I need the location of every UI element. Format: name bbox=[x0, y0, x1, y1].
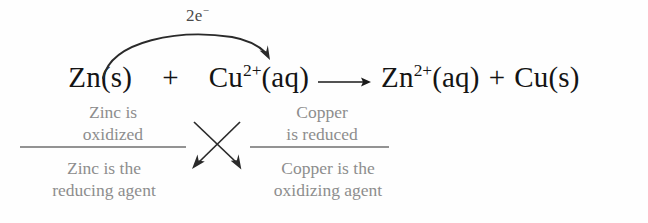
annotation-copper-reduced-line2: is reduced bbox=[252, 123, 392, 145]
product-zinc-ion: Zn2+(aq) bbox=[381, 60, 480, 94]
annotation-reducing-agent-line2: reducing agent bbox=[18, 179, 190, 201]
annotation-oxidizing-agent: Copper is the oxidizing agent bbox=[244, 157, 412, 201]
product-zinc-charge: 2+ bbox=[414, 60, 433, 80]
reaction-yields-arrow-icon bbox=[318, 61, 372, 95]
product-copper-symbol: Cu bbox=[514, 61, 548, 93]
cross-arrow-right-to-left-icon bbox=[192, 122, 240, 169]
electron-count: 2e bbox=[186, 6, 203, 25]
reactant-copper-ion: Cu2+(aq) bbox=[209, 60, 309, 94]
product-copper-state: (s) bbox=[548, 61, 579, 93]
product-copper: Cu(s) bbox=[514, 60, 579, 94]
reactant-copper-symbol: Cu bbox=[209, 61, 243, 93]
annotation-copper-reduced: Copper is reduced bbox=[252, 101, 392, 145]
annotation-zinc-oxidized-line2: oxidized bbox=[38, 123, 188, 145]
annotation-reducing-agent: Zinc is the reducing agent bbox=[18, 157, 190, 201]
equation-plus-operator-1: + bbox=[162, 60, 179, 94]
annotation-oxidizing-agent-line2: oxidizing agent bbox=[244, 179, 412, 201]
annotation-zinc-oxidized-line1: Zinc is bbox=[38, 101, 188, 123]
redox-diagram: 2e− Zn(s)+Cu2+(aq)Zn2+(aq)+Cu(s) Zinc is… bbox=[0, 0, 648, 223]
cross-arrow-left-to-right-icon bbox=[194, 122, 243, 169]
reactant-zinc-state: (s) bbox=[101, 61, 132, 93]
electron-charge-sign: − bbox=[203, 4, 209, 16]
reactant-copper-charge: 2+ bbox=[243, 60, 262, 80]
reactant-zinc-symbol: Zn bbox=[68, 61, 101, 93]
annotation-oxidizing-agent-line1: Copper is the bbox=[244, 157, 412, 179]
product-zinc-state: (aq) bbox=[432, 61, 480, 93]
annotation-reducing-agent-line1: Zinc is the bbox=[18, 157, 190, 179]
product-zinc-symbol: Zn bbox=[381, 61, 414, 93]
annotation-zinc-oxidized: Zinc is oxidized bbox=[38, 101, 188, 145]
annotation-copper-reduced-line1: Copper bbox=[252, 101, 392, 123]
reactant-copper-state: (aq) bbox=[262, 61, 310, 93]
equation-plus-operator-2: + bbox=[489, 60, 506, 94]
reactant-zinc: Zn(s) bbox=[68, 60, 132, 94]
electron-transfer-label: 2e− bbox=[186, 6, 209, 26]
chemical-equation: Zn(s)+Cu2+(aq)Zn2+(aq)+Cu(s) bbox=[0, 60, 648, 100]
